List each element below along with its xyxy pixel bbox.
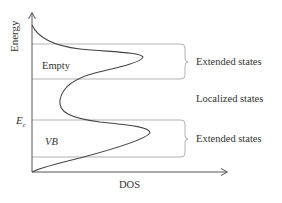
extended-states-label-lower: Extended states: [196, 134, 262, 145]
localized-states-label: Localized states: [196, 94, 263, 105]
y-axis-label: Energy: [9, 20, 20, 52]
ec-label: Ec: [16, 115, 26, 129]
empty-band-label: Empty: [42, 61, 70, 72]
vb-band-label: VB: [45, 137, 58, 148]
x-axis-label: DOS: [119, 180, 140, 191]
extended-states-label-upper: Extended states: [196, 57, 262, 68]
extended-states-brackets: [181, 44, 188, 157]
dos-curve: [32, 25, 150, 172]
